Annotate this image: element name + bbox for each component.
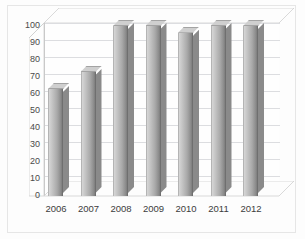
x-axis-tick-2007: 2007	[72, 203, 106, 214]
chart-screenshot: 1009080706050403020100 20062007200820092…	[0, 0, 305, 239]
x-axis-tick-2009: 2009	[137, 203, 171, 214]
y-axis-tick-30: 30	[14, 140, 40, 149]
x-axis-tick-2011: 2011	[202, 203, 236, 214]
bar-side-2010	[193, 30, 199, 193]
x-axis-tick-2012: 2012	[234, 203, 268, 214]
bar-side-2012	[258, 23, 264, 193]
y-axis-tick-100: 100	[14, 21, 40, 30]
x-axis-tick-2010: 2010	[169, 203, 203, 214]
bar-2011[interactable]	[211, 26, 226, 196]
y-axis-tick-40: 40	[14, 123, 40, 132]
bar-2008[interactable]	[113, 26, 128, 196]
y-axis-tick-70: 70	[14, 72, 40, 81]
bar-2009[interactable]	[146, 26, 161, 196]
bar-2007[interactable]	[81, 72, 96, 196]
x-axis-labels: 2006200720082009201020112012	[0, 203, 305, 219]
y-axis-tick-20: 20	[14, 157, 40, 166]
x-axis-tick-2008: 2008	[104, 203, 138, 214]
y-axis-tick-60: 60	[14, 89, 40, 98]
bar-2012[interactable]	[243, 26, 258, 196]
y-axis-tick-80: 80	[14, 55, 40, 64]
y-axis-tick-50: 50	[14, 106, 40, 115]
bar-side-2008	[128, 23, 134, 193]
y-axis-tick-0: 0	[14, 191, 40, 200]
bar-side-2006	[63, 86, 69, 193]
bar-2010[interactable]	[178, 33, 193, 196]
x-axis-tick-2006: 2006	[39, 203, 73, 214]
chart-plot-area: 1009080706050403020100 20062007200820092…	[0, 0, 305, 239]
bar-side-2007	[96, 69, 102, 193]
bar-side-2009	[161, 23, 167, 193]
y-axis-tick-10: 10	[14, 174, 40, 183]
y-axis-tick-90: 90	[14, 38, 40, 47]
bar-side-2011	[226, 23, 232, 193]
bar-2006[interactable]	[48, 89, 63, 196]
